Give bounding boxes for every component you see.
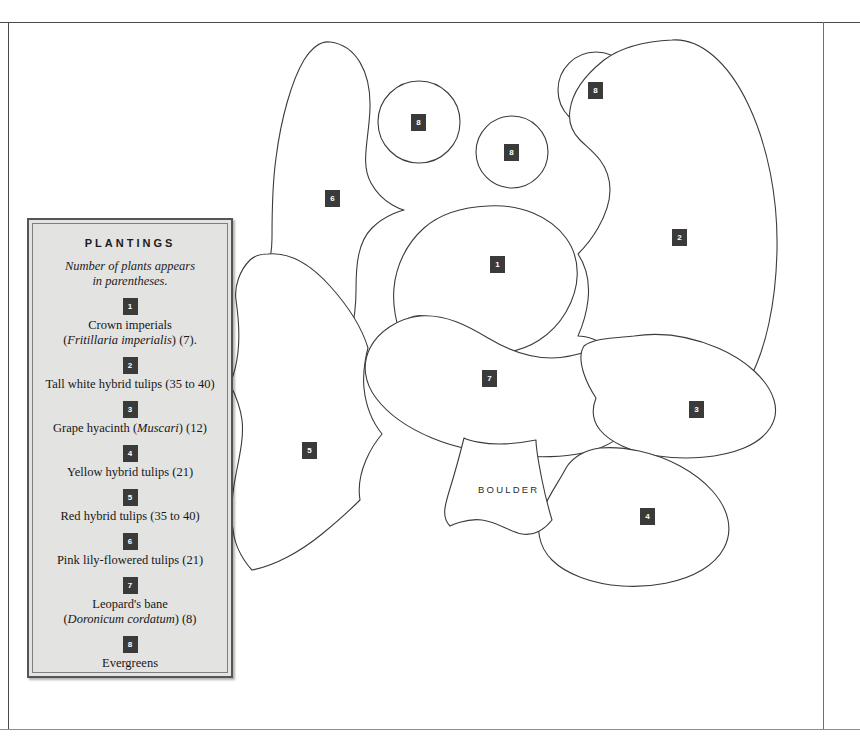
legend-entry-1-line2: (Fritillaria imperialis) (7).: [41, 333, 219, 348]
legend-entry-8-line1: Evergreens: [41, 656, 219, 671]
legend-badge-wrap-2: 2: [41, 357, 219, 374]
legend-entry-3-common: Grape hyacinth (: [53, 421, 137, 435]
map-badge-4[interactable]: 4: [640, 508, 655, 525]
legend-entry-8[interactable]: 8 Evergreens: [41, 636, 219, 671]
legend-badge-wrap-6: 6: [41, 533, 219, 550]
legend-entry-4-line1: Yellow hybrid tulips (21): [41, 465, 219, 480]
legend-badge-7[interactable]: 7: [123, 577, 138, 594]
legend-badge-wrap-1: 1: [41, 298, 219, 315]
map-badge-8-left[interactable]: 8: [411, 114, 426, 131]
legend-badge-wrap-3: 3: [41, 401, 219, 418]
legend-entry-7-botanical: Doronicum cordatum: [68, 612, 175, 626]
legend-entry-7[interactable]: 7 Leopard's bane (Doronicum cordatum) (8…: [41, 577, 219, 627]
legend-subtitle: Number of plants appears in parentheses.: [41, 259, 219, 289]
map-badge-8-right[interactable]: 8: [588, 82, 603, 99]
map-badge-6[interactable]: 6: [325, 190, 340, 207]
legend-entry-7-line2: (Doronicum cordatum) (8): [41, 612, 219, 627]
legend-badge-2[interactable]: 2: [123, 357, 138, 374]
legend-badge-3[interactable]: 3: [123, 401, 138, 418]
plantings-legend-panel: PLANTINGS Number of plants appears in pa…: [27, 218, 233, 678]
plantings-legend-inner: PLANTINGS Number of plants appears in pa…: [32, 223, 228, 673]
legend-badge-wrap-5: 5: [41, 489, 219, 506]
map-badge-7[interactable]: 7: [482, 370, 497, 387]
legend-entry-7-line1: Leopard's bane: [41, 597, 219, 612]
legend-badge-8[interactable]: 8: [123, 636, 138, 653]
legend-entry-6[interactable]: 6 Pink lily-flowered tulips (21): [41, 533, 219, 568]
legend-badge-5[interactable]: 5: [123, 489, 138, 506]
legend-entry-3-count: ) (12): [179, 421, 207, 435]
legend-badge-wrap-8: 8: [41, 636, 219, 653]
bed-shape-4-yellow-hybrid-tulips: [539, 448, 729, 587]
boulder-label: BOULDER: [478, 484, 539, 495]
legend-entry-6-line1: Pink lily-flowered tulips (21): [41, 553, 219, 568]
legend-entry-3[interactable]: 3 Grape hyacinth (Muscari) (12): [41, 401, 219, 436]
legend-entry-1-count: ) (7).: [172, 333, 197, 347]
map-badge-1[interactable]: 1: [490, 256, 505, 273]
map-badge-5[interactable]: 5: [302, 442, 317, 459]
legend-entry-4[interactable]: 4 Yellow hybrid tulips (21): [41, 445, 219, 480]
legend-title: PLANTINGS: [41, 237, 219, 249]
legend-entry-7-count: ) (8): [175, 612, 197, 626]
legend-badge-6[interactable]: 6: [123, 533, 138, 550]
legend-subtitle-line2: in parentheses.: [41, 274, 219, 289]
legend-entry-3-line1: Grape hyacinth (Muscari) (12): [41, 421, 219, 436]
legend-entry-1-botanical: Fritillaria imperialis: [67, 333, 172, 347]
legend-entry-2[interactable]: 2 Tall white hybrid tulips (35 to 40): [41, 357, 219, 392]
legend-entry-1[interactable]: 1 Crown imperials (Fritillaria imperiali…: [41, 298, 219, 348]
legend-badge-4[interactable]: 4: [123, 445, 138, 462]
bed-shape-5-red-hybrid-tulips: [230, 254, 382, 570]
map-badge-8-middle[interactable]: 8: [504, 144, 519, 161]
legend-entry-2-line1: Tall white hybrid tulips (35 to 40): [41, 377, 219, 392]
legend-badge-1[interactable]: 1: [123, 298, 138, 315]
legend-entry-3-botanical: Muscari: [137, 421, 179, 435]
legend-entry-1-line1: Crown imperials: [41, 318, 219, 333]
legend-entry-5[interactable]: 5 Red hybrid tulips (35 to 40): [41, 489, 219, 524]
legend-badge-wrap-4: 4: [41, 445, 219, 462]
legend-entry-5-line1: Red hybrid tulips (35 to 40): [41, 509, 219, 524]
legend-subtitle-line1: Number of plants appears: [41, 259, 219, 274]
legend-badge-wrap-7: 7: [41, 577, 219, 594]
map-badge-2[interactable]: 2: [672, 229, 687, 246]
map-badge-3[interactable]: 3: [689, 401, 704, 418]
